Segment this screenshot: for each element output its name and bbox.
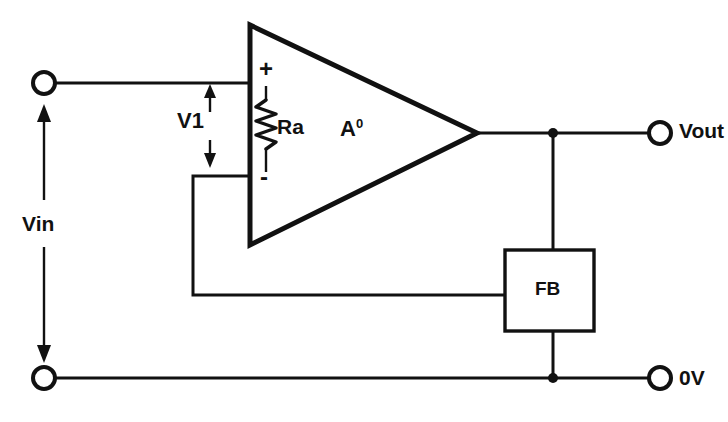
output-terminal-vout[interactable] (649, 122, 671, 144)
gain-base: A (340, 116, 356, 141)
label-feedback-block: FB (535, 279, 560, 298)
label-vout: Vout (679, 120, 724, 141)
gain-exponent: 0 (356, 116, 363, 131)
v1-arrow-up-head (204, 84, 216, 98)
circuit-diagram: Vin V1 Ra A0 FB Vout 0V + - (0, 0, 728, 422)
label-v1: V1 (177, 110, 204, 132)
label-vin: Vin (22, 213, 54, 234)
input-terminal-top[interactable] (33, 72, 55, 94)
label-noninverting-input: + (259, 57, 273, 81)
ground-terminal-0v[interactable] (649, 367, 671, 389)
v1-arrow-down-head (204, 153, 216, 168)
junction-dot-ground (548, 373, 558, 383)
label-0v: 0V (679, 367, 705, 388)
circuit-schematic-canvas (0, 0, 728, 422)
label-inverting-input: - (260, 165, 268, 189)
input-terminal-bottom[interactable] (33, 367, 55, 389)
label-gain: A0 (340, 117, 363, 140)
vin-arrow-up-head (37, 104, 51, 122)
label-input-resistor: Ra (277, 116, 304, 137)
vin-arrow-down-head (37, 345, 51, 363)
